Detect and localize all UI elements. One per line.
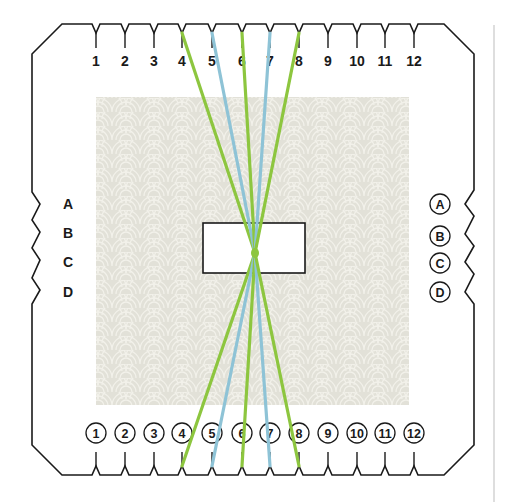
braiding-card-diagram: 123456789101112 123456789101112 ABCD ABC…: [0, 0, 506, 502]
slot-number: 2: [122, 427, 129, 441]
bottom-slot-label: 7: [260, 423, 280, 443]
slot-number: 11: [378, 427, 391, 441]
top-slot-label: 10: [349, 53, 365, 69]
bottom-slot-label: 11: [375, 423, 395, 443]
bottom-slot-label: 3: [144, 423, 164, 443]
top-slot-label: 8: [295, 53, 303, 69]
top-slot-label: 9: [324, 53, 332, 69]
slot-number: 4: [179, 427, 186, 441]
top-slot-label: 3: [150, 53, 158, 69]
left-slot-label: D: [63, 284, 73, 300]
slot-number: 12: [407, 427, 421, 441]
right-slot-label: D: [430, 282, 450, 302]
slot-letter: B: [435, 230, 444, 244]
top-slot-label: 11: [378, 53, 393, 69]
right-slot-label: C: [430, 253, 450, 273]
left-slot-label: A: [63, 196, 73, 212]
slot-number: 9: [325, 427, 332, 441]
bottom-slot-label: 12: [404, 423, 424, 443]
bottom-slot-label: 9: [318, 423, 338, 443]
slot-number: 10: [350, 427, 364, 441]
bottom-slot-label: 1: [86, 423, 106, 443]
slot-letter: A: [435, 198, 444, 212]
top-slot-label: 4: [178, 53, 186, 69]
top-slot-label: 1: [92, 53, 100, 69]
thread-knot: [251, 248, 259, 258]
slot-letter: D: [435, 286, 444, 300]
slot-number: 8: [296, 427, 303, 441]
slot-letter: C: [435, 257, 444, 271]
slot-number: 3: [151, 427, 158, 441]
bottom-slot-label: 2: [115, 423, 135, 443]
top-slot-label: 12: [406, 53, 422, 69]
bottom-slot-label: 4: [172, 423, 192, 443]
bottom-slot-label: 10: [347, 423, 367, 443]
left-slot-label: C: [63, 254, 73, 270]
top-slot-label: 2: [121, 53, 129, 69]
slot-number: 1: [93, 427, 100, 441]
right-slot-label: A: [430, 194, 450, 214]
left-slot-label: B: [63, 225, 73, 241]
right-slot-label: B: [430, 226, 450, 246]
slot-number: 5: [209, 427, 216, 441]
